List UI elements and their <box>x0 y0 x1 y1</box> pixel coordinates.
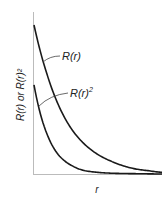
series-label-r: R(r) <box>62 50 81 62</box>
curve-r <box>34 25 162 172</box>
leader-line-r <box>43 56 60 62</box>
series-label-r-squared: R(r)2 <box>70 86 93 99</box>
y-axis-label: R(r) or R(r)² <box>15 68 26 121</box>
chart: R(r) R(r)2 r R(r) or R(r)² <box>0 0 167 202</box>
x-axis-label: r <box>95 184 99 195</box>
curve-r-squared <box>34 85 162 174</box>
